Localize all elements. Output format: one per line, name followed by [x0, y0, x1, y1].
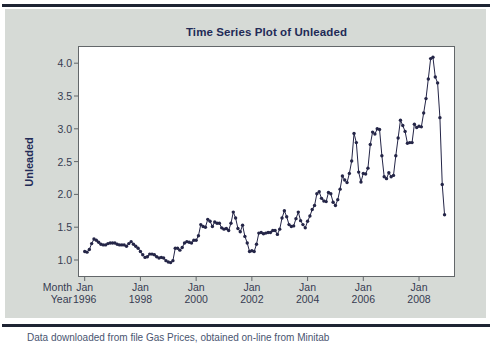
data-point	[146, 255, 149, 258]
x-tick-label: Jan2002	[230, 281, 274, 305]
data-point	[364, 172, 367, 175]
data-point	[378, 128, 381, 131]
data-point	[283, 209, 286, 212]
data-point	[357, 170, 360, 173]
y-tick-label: 2.0	[32, 188, 72, 200]
data-point	[208, 220, 211, 223]
data-point	[331, 201, 334, 204]
data-point	[410, 141, 413, 144]
data-point	[211, 225, 214, 228]
data-point	[227, 229, 230, 232]
x-tick-label: Jan2000	[174, 281, 218, 305]
x-tick-year: 2008	[397, 293, 441, 305]
data-point	[246, 241, 249, 244]
data-point	[427, 77, 430, 80]
data-point	[355, 141, 358, 144]
data-point	[324, 200, 327, 203]
data-point	[317, 190, 320, 193]
data-point	[278, 227, 281, 230]
x-tick-month: Jan	[341, 281, 385, 293]
data-point	[438, 116, 441, 119]
data-point	[241, 224, 244, 227]
data-point	[436, 81, 439, 84]
data-point	[359, 180, 362, 183]
data-point	[401, 124, 404, 127]
data-point	[338, 187, 341, 190]
data-point	[387, 171, 390, 174]
data-point	[190, 241, 193, 244]
data-point	[204, 226, 207, 229]
x-tick-label: Jan2006	[341, 281, 385, 305]
bottom-divider-rule	[2, 324, 490, 327]
data-point	[197, 234, 200, 237]
y-tick-label: 3.5	[32, 90, 72, 102]
x-tick-month: Jan	[174, 281, 218, 293]
data-point	[336, 198, 339, 201]
data-point	[139, 250, 142, 253]
x-tick-month: Jan	[397, 281, 441, 293]
data-point	[301, 223, 304, 226]
month-row-label: Month	[12, 281, 72, 293]
data-point	[276, 233, 279, 236]
data-point	[424, 97, 427, 100]
data-point	[294, 217, 297, 220]
x-axis-row-labels: Month Year	[12, 281, 72, 305]
data-point	[243, 235, 246, 238]
data-point	[306, 220, 309, 223]
y-tick-label: 1.0	[32, 254, 72, 266]
data-point	[236, 227, 239, 230]
data-point	[299, 219, 302, 222]
data-point	[341, 174, 344, 177]
figure-panel: Time Series Plot of Unleaded Unleaded 4.…	[5, 9, 486, 318]
x-tick-year: 2004	[286, 293, 330, 305]
data-point	[229, 222, 232, 225]
data-point	[141, 253, 144, 256]
data-point	[297, 210, 300, 213]
x-tick-year: 2000	[174, 293, 218, 305]
time-series-plot	[5, 9, 486, 318]
data-point	[320, 197, 323, 200]
data-point	[85, 250, 88, 253]
data-point	[350, 159, 353, 162]
data-point	[280, 216, 283, 219]
data-point	[431, 56, 434, 59]
x-tick-year: 2006	[341, 293, 385, 305]
data-point	[396, 136, 399, 139]
data-point	[218, 222, 221, 225]
data-point	[403, 130, 406, 133]
data-point	[313, 204, 316, 207]
top-divider-rule	[2, 4, 490, 7]
data-point	[178, 248, 181, 251]
data-point	[329, 192, 332, 195]
data-point	[239, 230, 242, 233]
data-point	[285, 215, 288, 218]
data-point	[252, 250, 255, 253]
x-tick-label: Jan2004	[286, 281, 330, 305]
year-row-label: Year	[12, 293, 72, 305]
data-point	[125, 245, 128, 248]
x-tick-year: 2002	[230, 293, 274, 305]
y-tick-label: 1.5	[32, 221, 72, 233]
data-point	[413, 123, 416, 126]
data-point	[343, 178, 346, 181]
data-point	[422, 111, 425, 114]
data-point	[366, 166, 369, 169]
data-point	[420, 125, 423, 128]
axis-tick-marks	[74, 63, 419, 281]
y-tick-label: 4.0	[32, 57, 72, 69]
data-point	[90, 242, 93, 245]
x-tick-label: Jan1998	[118, 281, 162, 305]
data-point	[394, 154, 397, 157]
x-tick-label: Jan2008	[397, 281, 441, 305]
data-point	[304, 226, 307, 229]
data-point	[232, 210, 235, 213]
data-point	[352, 132, 355, 135]
data-point	[399, 119, 402, 122]
x-tick-month: Jan	[230, 281, 274, 293]
unleaded-series	[83, 56, 446, 265]
x-tick-month: Jan	[286, 281, 330, 293]
data-point	[255, 243, 258, 246]
y-tick-label: 3.0	[32, 123, 72, 135]
data-point	[234, 216, 237, 219]
